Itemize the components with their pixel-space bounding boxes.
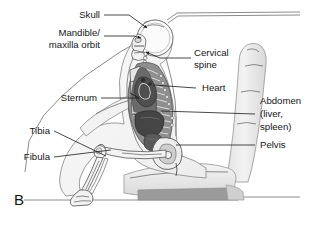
label-fibula: Fibula bbox=[24, 151, 51, 162]
label-tibia: Tibia bbox=[30, 125, 51, 136]
label-mandible-line1: Mandible/ bbox=[58, 27, 100, 38]
label-sternum: Sternum bbox=[61, 92, 97, 103]
label-abdomen-line3: spleen) bbox=[260, 121, 291, 132]
label-heart: Heart bbox=[202, 82, 226, 93]
anatomy-diagram-svg: Skull Mandible/ maxilla orbit Cervical s… bbox=[0, 0, 315, 226]
panel-letter: B bbox=[14, 191, 24, 208]
label-abdomen-line2: (liver, bbox=[260, 108, 283, 119]
label-cervical-spine-line2: spine bbox=[194, 59, 217, 70]
label-pelvis: Pelvis bbox=[260, 139, 286, 150]
label-cervical-spine-line1: Cervical bbox=[194, 47, 229, 58]
label-mandible-line2: maxilla orbit bbox=[49, 39, 101, 50]
label-skull: Skull bbox=[79, 9, 100, 20]
anatomical-figure-panel: Skull Mandible/ maxilla orbit Cervical s… bbox=[0, 0, 315, 226]
label-abdomen-line1: Abdomen bbox=[260, 95, 301, 106]
